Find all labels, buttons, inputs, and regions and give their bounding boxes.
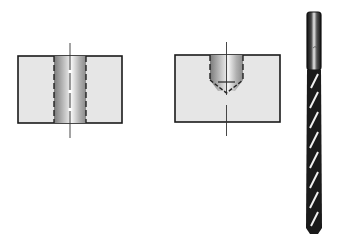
drill-shank bbox=[307, 12, 321, 70]
through-hole-panel bbox=[18, 43, 122, 138]
twist-drill-panel bbox=[306, 12, 322, 234]
drilling-diagram bbox=[0, 0, 345, 244]
drill-flutes bbox=[306, 70, 322, 234]
blind-hole-panel bbox=[175, 42, 280, 136]
